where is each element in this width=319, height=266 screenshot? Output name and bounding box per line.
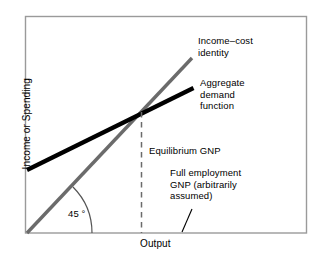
equilibrium-gnp-label: Equilibrium GNP — [149, 145, 221, 157]
y-axis-title: Income or Spending — [21, 49, 33, 199]
aggregate-demand-function-line — [27, 88, 194, 170]
x-axis-title: Output — [140, 238, 171, 250]
full-employment-gnp-label: Full employment GNP (arbitrarily assumed… — [170, 167, 241, 202]
plot-frame — [26, 17, 307, 234]
full-employment-leader-line — [182, 209, 192, 232]
angle-45-label: 45 ° — [68, 208, 85, 220]
chart-canvas — [0, 0, 319, 266]
aggregate-demand-function-label: Aggregate demand function — [200, 77, 245, 112]
economics-chart: Income or Spending Output Income–cost id… — [0, 0, 319, 266]
income-cost-identity-label: Income–cost identity — [198, 35, 253, 58]
